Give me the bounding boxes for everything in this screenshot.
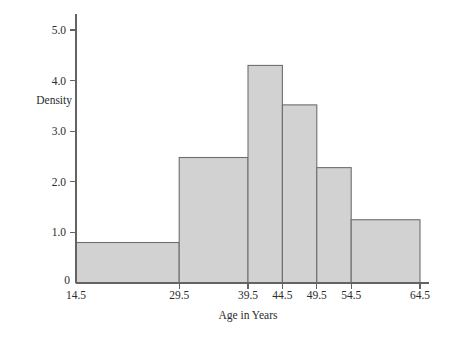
y-tick-label: 4.0: [52, 75, 67, 87]
x-tick-label: 44.5: [272, 289, 292, 301]
bars-layer: [76, 65, 420, 283]
x-axis-title: Age in Years: [218, 309, 278, 322]
histogram-bar: [76, 243, 179, 283]
histogram-bar: [179, 158, 248, 283]
y-axis-zero-label: 0: [64, 274, 70, 286]
histogram-bar: [351, 220, 420, 283]
x-tick-label: 14.5: [66, 289, 86, 301]
histogram-bar: [282, 105, 316, 283]
y-axis-title: Density: [36, 94, 72, 107]
x-tick-label: 54.5: [341, 289, 361, 301]
y-axis-ticks: 1.02.03.04.05.0: [52, 24, 76, 238]
y-tick-label: 2.0: [52, 176, 67, 188]
x-tick-label: 39.5: [238, 289, 258, 301]
histogram-bar: [317, 168, 351, 283]
histogram-bar: [248, 65, 282, 283]
x-tick-label: 29.5: [169, 289, 189, 301]
x-axis-ticks: 14.529.539.544.549.554.564.5: [66, 283, 430, 301]
y-tick-label: 5.0: [52, 24, 67, 36]
x-tick-label: 64.5: [410, 289, 430, 301]
histogram-plot-area: 1.02.03.04.05.0 14.529.539.544.549.554.5…: [0, 0, 449, 338]
y-tick-label: 3.0: [52, 125, 67, 137]
histogram-figure: 1.02.03.04.05.0 14.529.539.544.549.554.5…: [0, 0, 449, 338]
x-tick-label: 49.5: [307, 289, 327, 301]
y-tick-label: 1.0: [52, 226, 67, 238]
